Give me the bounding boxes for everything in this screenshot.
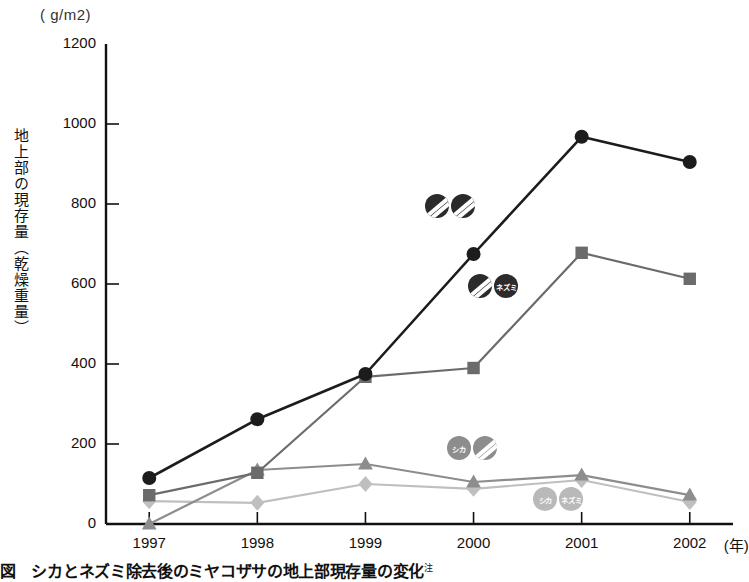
hatched-circle-icon <box>425 194 449 218</box>
caption-superscript: 注 <box>424 563 433 573</box>
badge-label: ネズミ <box>496 281 517 291</box>
figure-caption: 図 シカとネズミ除去後のミヤコザサの地上部現存量の変化注 <box>0 558 747 582</box>
series-square <box>143 247 696 502</box>
hatched-circle-icon <box>473 436 497 460</box>
data-point-circle <box>575 130 589 144</box>
data-point-triangle <box>574 468 589 481</box>
data-point-square <box>467 362 479 374</box>
series-line <box>149 253 690 495</box>
series-triangle <box>142 456 697 529</box>
data-point-circle <box>142 471 156 485</box>
data-point-triangle <box>358 456 373 469</box>
data-point-square <box>684 273 696 285</box>
data-point-circle <box>250 412 264 426</box>
data-point-square <box>251 467 263 479</box>
data-point-circle <box>358 367 372 381</box>
data-point-square <box>143 489 155 501</box>
series-diamond <box>142 472 697 511</box>
hatched-circle-icon <box>451 194 475 218</box>
hatched-circle-icon <box>468 274 492 298</box>
badge-label: シカ <box>538 494 552 504</box>
nezumi-badge-icon: ネズミ <box>494 274 518 298</box>
data-point-circle <box>467 247 481 261</box>
shika-badge-icon: シカ <box>533 487 557 511</box>
badge-label: シカ <box>452 443 466 453</box>
series-line <box>149 137 690 478</box>
data-point-diamond <box>250 495 264 511</box>
nezumi-badge-icon: ネズミ <box>559 487 583 511</box>
data-point-diamond <box>358 476 372 492</box>
shika-badge-icon: シカ <box>447 436 471 460</box>
badge-label: ネズミ <box>561 494 582 504</box>
data-point-circle <box>683 155 697 169</box>
data-point-square <box>575 247 587 259</box>
series-circle <box>142 130 697 485</box>
series-line <box>149 464 690 524</box>
